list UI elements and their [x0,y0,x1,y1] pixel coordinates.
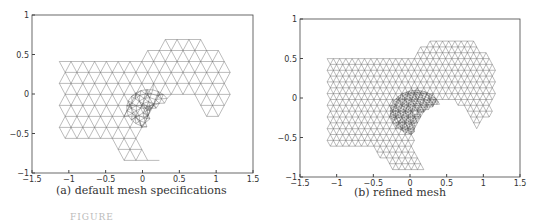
y-tick-label: 1 [292,15,297,24]
x-tick-label: 1.5 [247,175,260,184]
y-tick-label: 0.5 [284,55,297,64]
x-tick-label: 0 [140,175,145,184]
x-tick-label: −1 [63,175,75,184]
mesh-plot-refined: −1.5−1−0.500.511.5−1−0.500.51 [268,0,536,200]
x-tick-label: 1 [481,179,486,188]
panel-b: −1.5−1−0.500.511.5−1−0.500.51 (b) refine… [268,0,536,200]
y-tick-label: 1 [24,11,29,20]
y-tick-label: −1 [17,169,29,178]
x-tick-label: 1 [214,175,219,184]
y-tick-label: −0.5 [278,134,297,143]
mesh-plot-default: −1.5−1−0.500.511.5−1−0.500.51 [0,0,268,200]
x-tick-label: −1 [331,179,343,188]
caption-a: (a) default mesh specifications [56,184,227,197]
x-tick-label: 1.5 [514,179,527,188]
x-tick-label: −0.5 [96,175,115,184]
y-tick-label: −1 [285,173,297,182]
y-tick-label: −0.5 [10,130,29,139]
figure-caption-partial: FIGURE [70,212,114,220]
triangle-mesh [59,40,230,161]
y-tick-label: 0 [292,94,297,103]
caption-b: (b) refined mesh [354,186,446,199]
triangle-mesh [327,41,495,170]
y-tick-label: 0.5 [16,51,29,60]
y-tick-label: 0 [24,90,29,99]
x-tick-label: 0.5 [173,175,186,184]
panel-a: −1.5−1−0.500.511.5−1−0.500.51 (a) defaul… [0,0,268,200]
